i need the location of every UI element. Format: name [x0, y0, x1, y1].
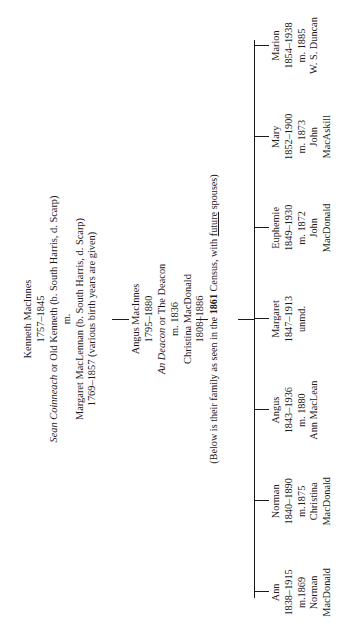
child-spouse-first: Norman	[308, 547, 321, 638]
gen1-spouse-dates: 1769–1857 (various birth years are given…	[86, 0, 99, 638]
gen2-spouse: Christina MacDonald	[182, 0, 195, 638]
child-name: Mary	[270, 91, 283, 182]
child-name: Euphemie	[270, 182, 283, 273]
child-norman: Norman 1840–1890 m.1875 Christina MacDon…	[254, 456, 334, 547]
child-marriage: m.1869	[296, 547, 309, 638]
child-dates: 1838–1915	[283, 547, 296, 638]
child-dates: 1849–1930	[283, 182, 296, 273]
gen2-marriage: m. 1836	[169, 0, 182, 638]
connector-note-to-sibling-bus	[238, 319, 254, 320]
gen2-alias-gaelic: An Deacon	[156, 328, 167, 374]
child-angus: Angus 1843–1936 m. 1880 Ann MacLean	[254, 365, 321, 456]
child-spouse-first: Ann MacLean	[308, 365, 321, 456]
child-dates: 1847–1913	[283, 273, 296, 364]
child-ann: Ann 1838–1915 m.1869 Norman MacDonald	[254, 547, 334, 638]
child-name: Norman	[270, 456, 283, 547]
child-name: Margaret	[270, 273, 283, 364]
gen1-alias-rest: or Old Kenneth (b. South Harris, d. Scar…	[48, 195, 59, 374]
gen1-dates: 1757–1845	[35, 0, 48, 638]
child-marion: Marion 1854–1938 m. 1885 W. S. Duncan	[254, 0, 321, 91]
child-spouse-first: John	[308, 182, 321, 273]
gen2-name: Angus MacInnes	[130, 0, 143, 638]
child-dates: 1854–1938	[283, 0, 296, 91]
census-note-suffix: spouses)	[208, 174, 219, 212]
connector-gen1-to-gen2	[112, 319, 129, 320]
child-marriage: m. 1873	[296, 91, 309, 182]
child-margaret: Margaret 1847–1913 unmd.	[254, 273, 308, 364]
connector-gen2-to-note	[196, 319, 208, 320]
gen1-spouse: Margaret MacLennan (b. South Harris, d. …	[74, 0, 87, 638]
child-marriage: unmd.	[296, 273, 309, 364]
gen1-alias: Sean Coinneach or Old Kenneth (b. South …	[48, 0, 61, 638]
child-drop-line	[254, 591, 269, 592]
child-marriage: m. 1872	[296, 182, 309, 273]
census-year: 1861	[208, 294, 219, 314]
child-name: Ann	[270, 547, 283, 638]
child-marriage: m.1875	[296, 456, 309, 547]
census-note-prefix: (Below is their family as seen in the	[208, 314, 219, 463]
genealogy-chart-sheet: Kenneth MacInnes 1757–1845 Sean Coinneac…	[0, 0, 342, 638]
child-marriage: m. 1885	[296, 0, 309, 91]
child-drop-line	[254, 500, 269, 501]
child-marriage: m. 1880	[296, 365, 309, 456]
child-name: Marion	[270, 0, 283, 91]
child-spouse-first: W. S. Duncan	[308, 0, 321, 91]
gen1-name: Kenneth MacInnes	[22, 0, 35, 638]
child-euphemie: Euphemie 1849–1930 m. 1872 John MacDonal…	[254, 182, 334, 273]
child-dates: 1840–1890	[283, 456, 296, 547]
census-note: (Below is their family as seen in the 18…	[208, 0, 221, 638]
children-row: Ann 1838–1915 m.1869 Norman MacDonald No…	[254, 0, 342, 638]
child-drop-line	[254, 45, 269, 46]
child-drop-line	[254, 136, 269, 137]
census-note-emphasis: future	[208, 212, 219, 236]
child-mary: Mary 1852–1900 m. 1873 John MacAskill	[254, 91, 334, 182]
generation1-block: Kenneth MacInnes 1757–1845 Sean Coinneac…	[22, 0, 99, 638]
gen2-alias: An Deacon or The Deacon	[156, 0, 169, 638]
child-spouse-last: MacDonald	[321, 456, 334, 547]
census-note-middle: Census, with	[208, 236, 219, 294]
child-drop-line	[254, 318, 269, 319]
child-dates: 1843–1936	[283, 365, 296, 456]
child-name: Angus	[270, 365, 283, 456]
child-drop-line	[254, 409, 269, 410]
gen1-marriage-mark: m.	[61, 0, 74, 638]
child-spouse-last: MacDonald	[321, 547, 334, 638]
gen2-dates: 1795–1880	[143, 0, 156, 638]
gen1-alias-gaelic: Sean Coinneach	[48, 375, 59, 443]
rotated-page-container: Kenneth MacInnes 1757–1845 Sean Coinneac…	[0, 0, 342, 638]
gen2-alias-rest: or The Deacon	[156, 264, 167, 328]
census-note-line: (Below is their family as seen in the 18…	[208, 0, 221, 638]
child-dates: 1852–1900	[283, 91, 296, 182]
child-spouse-last: MacAskill	[321, 91, 334, 182]
child-drop-line	[254, 227, 269, 228]
child-spouse-last: MacDonald	[321, 182, 334, 273]
child-spouse-first: Christina	[308, 456, 321, 547]
child-spouse-first: John	[308, 91, 321, 182]
